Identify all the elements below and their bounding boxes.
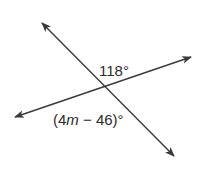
angle-label-top: 118° <box>99 62 129 79</box>
angle-label-bottom: (4m − 46)° <box>53 111 124 128</box>
line-a <box>42 23 174 156</box>
angle-diagram: 118° (4m − 46)° <box>0 0 203 169</box>
angle-label-bottom-pre: (4 <box>53 111 66 128</box>
angle-label-bottom-post: − 46)° <box>79 111 124 128</box>
angle-label-variable: m <box>66 111 79 128</box>
